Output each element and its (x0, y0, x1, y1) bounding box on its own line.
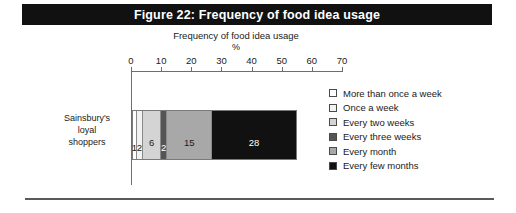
legend-swatch-icon (329, 104, 337, 112)
footer-rule (25, 198, 494, 200)
x-tick-label: 30 (216, 55, 227, 66)
category-label-line-2: loyal (48, 124, 126, 136)
x-tick-mark (342, 67, 343, 72)
figure-container: Figure 22: Frequency of food idea usage … (0, 0, 516, 213)
legend-swatch-icon (329, 118, 337, 126)
legend-swatch-icon (329, 147, 337, 155)
legend-item: Every two weeks (329, 115, 442, 130)
bar-segment-value: 28 (249, 138, 260, 148)
bar-segment: 28 (211, 111, 295, 159)
legend-item-label: Once a week (343, 102, 398, 113)
bar-segment: 15 (166, 111, 211, 159)
category-label-line-1: Sainsbury's (48, 112, 126, 124)
bar-segment: 6 (142, 111, 160, 159)
x-tick-label: 60 (307, 55, 318, 66)
legend-item-label: Every three weeks (343, 131, 421, 142)
x-tick-label: 0 (128, 55, 133, 66)
legend-item: Every few months (329, 159, 442, 174)
x-tick-label: 40 (246, 55, 257, 66)
bar-segment-value: 15 (184, 138, 195, 148)
legend-swatch-icon (329, 162, 337, 170)
category-label-line-3: shoppers (48, 136, 126, 148)
legend-item: Once a week (329, 101, 442, 116)
x-tick-label: 20 (186, 55, 197, 66)
legend-item: Every month (329, 144, 442, 159)
legend-item-label: Every two weeks (343, 117, 414, 128)
legend-swatch-icon (329, 89, 337, 97)
x-tick-label: 70 (337, 55, 348, 66)
legend-swatch-icon (329, 133, 337, 141)
bar-segment-value: 6 (149, 138, 154, 148)
legend-item: More than once a week (329, 86, 442, 101)
stacked-bar: 12621528 (132, 110, 297, 160)
legend-item: Every three weeks (329, 130, 442, 145)
legend-item-label: More than once a week (343, 88, 442, 99)
chart-legend: More than once a weekOnce a weekEvery tw… (329, 86, 442, 173)
x-tick-label: 50 (276, 55, 287, 66)
category-axis-label: Sainsbury's loyal shoppers (48, 112, 126, 148)
x-tick-label: 10 (156, 55, 167, 66)
legend-item-label: Every few months (343, 160, 419, 171)
legend-item-label: Every month (343, 146, 396, 157)
x-axis-line (131, 71, 342, 72)
